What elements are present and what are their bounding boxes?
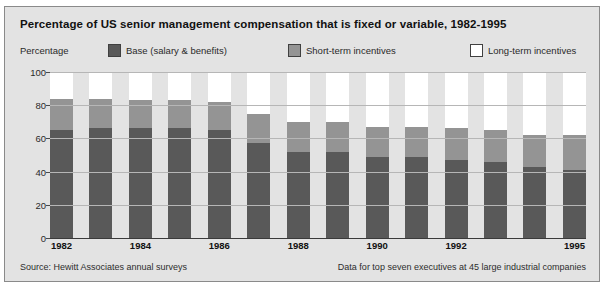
legend-label-long-term: Long-term incentives (488, 45, 576, 56)
bar-1995 (563, 72, 586, 238)
bar-segment-ltir-1994 (523, 72, 546, 135)
bar-segment-stir-1982 (50, 99, 73, 131)
bar-segment-ltir-1990 (366, 72, 389, 127)
bar-segment-stir-1986 (208, 102, 231, 130)
bar-1983 (89, 72, 112, 238)
bar-1991 (405, 72, 428, 238)
bar-segment-base-1995 (563, 170, 586, 238)
bar-segment-stir-1991 (405, 127, 428, 157)
y-tick-label-80: 80 (35, 100, 46, 111)
legend-item-base: Base (salary & benefits) (108, 44, 227, 57)
y-tickmark-0 (46, 238, 50, 239)
bar-1987 (247, 72, 270, 238)
bar-segment-ltir-1987 (247, 72, 270, 114)
bar-1992 (445, 72, 468, 238)
bar-segment-ltir-1988 (287, 72, 310, 122)
bar-1982 (50, 72, 73, 238)
x-tick-label-1982: 1982 (51, 240, 72, 251)
x-tick-label-1988: 1988 (288, 240, 309, 251)
plot-area (50, 72, 586, 238)
footer-source-text: Source: Hewitt Associates annual surveys (20, 262, 187, 272)
y-axis-labels: 020406080100 (20, 66, 46, 238)
bar-segment-ltir-1982 (50, 72, 73, 99)
legend-label-short-term: Short-term incentives (306, 45, 396, 56)
bar-segment-ltir-1984 (129, 72, 152, 100)
bar-series-group (50, 72, 586, 238)
bar-segment-base-1990 (366, 157, 389, 238)
legend-item-short-term: Short-term incentives (288, 44, 396, 57)
bar-1989 (326, 72, 349, 238)
bar-segment-ltir-1986 (208, 72, 231, 102)
bar-segment-ltir-1983 (89, 72, 112, 99)
gridline-80 (50, 105, 586, 106)
y-tickmark-100 (46, 72, 50, 73)
bar-segment-ltir-1993 (484, 72, 507, 130)
chart-footer: Source: Hewitt Associates annual surveys… (20, 262, 586, 276)
bar-segment-ltir-1992 (445, 72, 468, 128)
gridline-100 (50, 72, 586, 73)
bar-segment-stir-1993 (484, 130, 507, 162)
y-tick-label-100: 100 (30, 67, 46, 78)
bar-segment-base-1984 (129, 128, 152, 238)
x-axis-labels: 1982198419861988199019921995 (50, 240, 586, 254)
bar-1993 (484, 72, 507, 238)
bar-segment-base-1989 (326, 152, 349, 238)
bar-segment-stir-1989 (326, 122, 349, 152)
bar-segment-ltir-1989 (326, 72, 349, 122)
legend-swatch-icon-short-term (288, 44, 301, 57)
gridline-20 (50, 205, 586, 206)
x-tick-label-1984: 1984 (130, 240, 151, 251)
bar-segment-base-1988 (287, 152, 310, 238)
bar-segment-ltir-1991 (405, 72, 428, 127)
x-tick-label-1990: 1990 (367, 240, 388, 251)
footer-note-text: Data for top seven executives at 45 larg… (338, 262, 586, 272)
x-tick-label-1986: 1986 (209, 240, 230, 251)
bar-1984 (129, 72, 152, 238)
y-tick-label-20: 20 (35, 199, 46, 210)
gridline-40 (50, 172, 586, 173)
bar-segment-base-1982 (50, 130, 73, 238)
bar-segment-stir-1990 (366, 127, 389, 157)
plot-area-wrapper: 020406080100 198219841986198819901992199… (20, 66, 586, 246)
bar-segment-stir-1983 (89, 99, 112, 129)
bar-1990 (366, 72, 389, 238)
legend-swatch-icon-long-term (470, 44, 483, 57)
gridline-0 (50, 238, 586, 239)
gridline-60 (50, 138, 586, 139)
legend-swatch-icon-base (108, 44, 121, 57)
bar-segment-base-1985 (168, 128, 191, 238)
bar-1986 (208, 72, 231, 238)
bar-1988 (287, 72, 310, 238)
bar-segment-base-1986 (208, 130, 231, 238)
chart-title: Percentage of US senior management compe… (20, 18, 506, 30)
legend-label-base: Base (salary & benefits) (126, 45, 227, 56)
bar-segment-ltir-1995 (563, 72, 586, 135)
bar-segment-base-1983 (89, 128, 112, 238)
y-tick-label-40: 40 (35, 166, 46, 177)
x-tick-label-1995: 1995 (564, 240, 585, 251)
chart-legend: Percentage Base (salary & benefits) Shor… (20, 44, 586, 60)
bar-segment-stir-1988 (287, 122, 310, 152)
y-tick-label-60: 60 (35, 133, 46, 144)
y-tickmark-40 (46, 172, 50, 173)
bar-1994 (523, 72, 546, 238)
bar-segment-stir-1995 (563, 135, 586, 170)
x-tick-label-1992: 1992 (446, 240, 467, 251)
y-tickmark-20 (46, 205, 50, 206)
bar-1985 (168, 72, 191, 238)
bar-segment-base-1993 (484, 162, 507, 238)
chart-figure: Percentage of US senior management compe… (0, 0, 604, 288)
bar-segment-stir-1994 (523, 135, 546, 167)
y-tickmark-80 (46, 105, 50, 106)
legend-item-long-term: Long-term incentives (470, 44, 576, 57)
y-tickmark-60 (46, 138, 50, 139)
bar-segment-base-1987 (247, 143, 270, 238)
bar-segment-base-1991 (405, 157, 428, 238)
bar-segment-stir-1992 (445, 128, 468, 160)
y-axis-caption: Percentage (20, 45, 69, 56)
bar-segment-base-1994 (523, 167, 546, 238)
bar-segment-ltir-1985 (168, 72, 191, 100)
